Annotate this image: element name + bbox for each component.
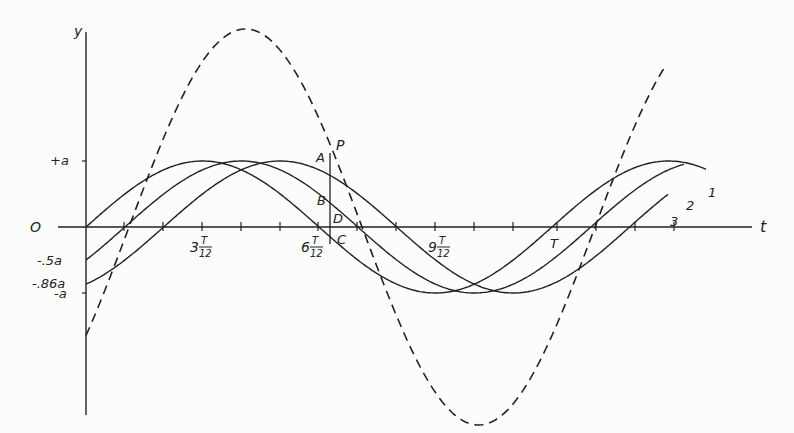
point-label-a: A: [315, 150, 325, 165]
y-tick-minus-half-a: -.5a: [37, 253, 62, 268]
svg-text:T: T: [439, 235, 446, 246]
y-tick-plus-a: +a: [50, 153, 69, 168]
svg-text:T: T: [312, 235, 319, 246]
origin-label: O: [30, 219, 41, 235]
y-tick-minus-a: -a: [54, 286, 67, 301]
curve-label-3: 3: [670, 214, 678, 229]
point-label-d: D: [333, 211, 343, 226]
point-label-c: C: [337, 232, 347, 247]
svg-text:12: 12: [310, 248, 323, 259]
svg-text:12: 12: [199, 248, 212, 259]
svg-text:9: 9: [428, 239, 437, 255]
curve-label-2: 2: [686, 198, 694, 213]
svg-text:3: 3: [190, 239, 199, 255]
curve-label-1: 1: [708, 185, 716, 200]
point-label-p: P: [336, 137, 345, 153]
svg-text:T: T: [201, 235, 208, 246]
point-label-b: B: [317, 193, 326, 208]
svg-text:T: T: [550, 236, 559, 251]
svg-text:12: 12: [437, 248, 450, 259]
y-axis-label: y: [73, 23, 83, 39]
svg-text:6: 6: [301, 239, 310, 255]
wave-superposition-diagram: y t O +a -.5a -.86a -a 3T126T129T12T 1 2…: [0, 0, 794, 433]
t-axis-label: t: [760, 217, 767, 236]
